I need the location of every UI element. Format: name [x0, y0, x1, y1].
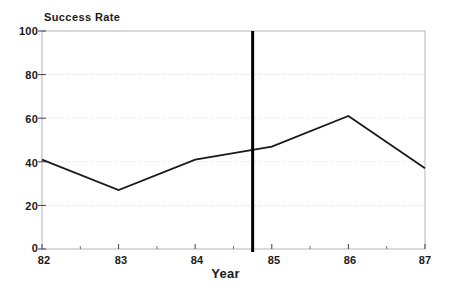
data-series-line	[42, 116, 425, 190]
gridlines	[42, 75, 425, 206]
plot-area	[0, 0, 451, 292]
plot-frame	[42, 31, 425, 249]
line-chart: Success Rate 100 80 60 40 20 0 82 83 84 …	[0, 0, 451, 292]
x-axis-title: Year	[0, 266, 451, 281]
